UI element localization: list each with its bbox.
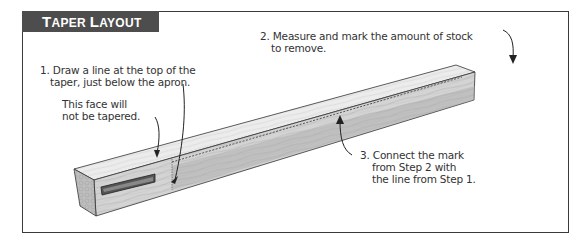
step1-line2: taper, just below the apron.: [40, 76, 190, 88]
leader-step2: [503, 30, 513, 58]
step3-line2: from Step 2 with: [360, 161, 456, 173]
step3-line3: the line from Step 1.: [360, 173, 476, 185]
step2-line2: to remove.: [260, 42, 326, 54]
face-note-callout: This face will not be tapered.: [62, 98, 140, 122]
step3-line1: 3. Connect the mark: [360, 149, 464, 161]
face-note-line1: This face will: [62, 98, 127, 110]
step2-line1: 2. Measure and mark the amount of stock: [260, 30, 473, 42]
step3-callout: 3. Connect the mark from Step 2 with the…: [360, 149, 476, 185]
step1-line1: 1. Draw a line at the top of the: [40, 64, 195, 76]
face-note-line2: not be tapered.: [62, 110, 140, 122]
step2-callout: 2. Measure and mark the amount of stock …: [260, 30, 473, 54]
step1-callout: 1. Draw a line at the top of the taper, …: [40, 64, 195, 88]
